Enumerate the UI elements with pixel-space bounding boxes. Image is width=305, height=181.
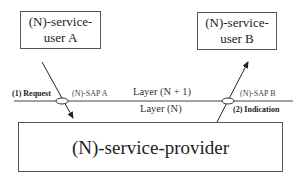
service-provider-box: (N)-service-provider: [18, 122, 283, 172]
request-label: (1) Request: [12, 89, 51, 98]
layer-upper-label: Layer (N + 1): [133, 86, 191, 97]
service-user-a-box: (N)-service- user A: [20, 11, 101, 49]
service-user-b-line1: (N)-service-: [198, 15, 276, 31]
service-provider-label: (N)-service-provider: [72, 137, 229, 158]
sap-b-label: (N)-SAP B: [240, 89, 275, 98]
service-user-b-box: (N)-service- user B: [197, 12, 277, 50]
service-user-a-line2: user A: [21, 30, 100, 46]
service-user-b-line2: user B: [198, 31, 276, 47]
sap-a-oval: [56, 98, 68, 104]
service-user-a-line1: (N)-service-: [21, 14, 100, 30]
indication-label: (2) Indication: [233, 105, 279, 114]
sap-b-oval: [222, 98, 234, 104]
layer-lower-label: Layer (N): [140, 103, 182, 114]
sap-a-label: (N)-SAP A: [72, 89, 107, 98]
